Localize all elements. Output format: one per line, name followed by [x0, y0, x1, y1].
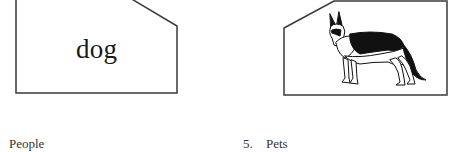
- category-label-pets: 5.Pets: [243, 136, 288, 152]
- category-label-people: People: [9, 136, 44, 152]
- category-text: Pets: [266, 136, 288, 151]
- category-number: 5.: [243, 136, 266, 152]
- cards-canvas: [0, 0, 453, 152]
- word-card-text: dog: [76, 34, 117, 65]
